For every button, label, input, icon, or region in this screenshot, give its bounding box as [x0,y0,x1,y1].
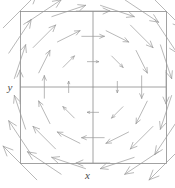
plot-frame [21,12,167,164]
arrow-head-barb [17,70,20,77]
arrow-head-barb [172,71,173,79]
vector-field-figure: y x [0,0,175,188]
y-axis-label: y [2,82,18,93]
arrow-head-barb [14,96,15,104]
arrow-head-barb [33,0,37,4]
arrow-head-barb [9,121,16,126]
x-axis-label: x [0,170,175,181]
plot-border [21,12,167,164]
vector-field-plot [0,0,175,188]
arrow-head-barb [78,5,86,6]
arrow-head-barb [173,24,175,28]
